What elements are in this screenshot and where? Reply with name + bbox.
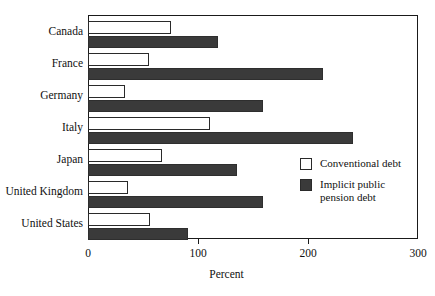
category-label: Germany [40, 89, 83, 101]
x-tick-label: 0 [85, 247, 91, 260]
category-label: Italy [62, 121, 83, 133]
category-label: United States [21, 217, 83, 229]
category-label: Canada [49, 25, 83, 37]
chart-legend: Conventional debtImplicit public pension… [300, 157, 418, 210]
bar-conventional-debt [88, 21, 171, 34]
legend-entry: Conventional debt [300, 157, 418, 171]
legend-label: Implicit public pension debt [320, 178, 418, 203]
bar-conventional-debt [88, 181, 128, 194]
x-tick-mark [198, 239, 199, 244]
bar-group [88, 79, 418, 111]
x-tick-mark [308, 239, 309, 244]
x-axis-title: Percent [0, 268, 435, 280]
chart-figure: CanadaFranceGermanyItalyJapanUnited King… [0, 0, 435, 296]
legend-label: Conventional debt [320, 157, 418, 170]
bar-group [88, 111, 418, 143]
x-tick-label: 200 [299, 247, 316, 260]
bar-conventional-debt [88, 149, 162, 162]
legend-swatch-conventional-debt [300, 158, 312, 170]
category-label: Japan [57, 153, 83, 165]
legend-entry: Implicit public pension debt [300, 178, 418, 203]
bar-implicit-pension-debt [88, 228, 188, 240]
bar-conventional-debt [88, 213, 150, 226]
bar-group [88, 47, 418, 79]
x-tick-label: 300 [409, 247, 426, 260]
legend-swatch-implicit-pension-debt [300, 179, 312, 191]
bar-conventional-debt [88, 85, 125, 98]
bar-conventional-debt [88, 53, 149, 66]
x-axis-title-text: Percent [209, 268, 243, 280]
category-label: France [52, 57, 83, 69]
bar-group [88, 207, 418, 239]
bar-group [88, 15, 418, 47]
x-tick-label: 100 [189, 247, 206, 260]
category-label: United Kingdom [5, 185, 83, 197]
bar-conventional-debt [88, 117, 210, 130]
